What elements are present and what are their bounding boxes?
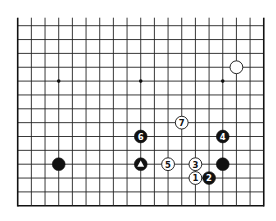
white-stone-1: 1: [189, 172, 202, 185]
star-point-icon: [57, 79, 61, 83]
move-number: 5: [165, 160, 171, 170]
black-stone-icon: [52, 158, 65, 171]
move-number: 4: [220, 132, 226, 142]
black-stone-6: 6: [134, 130, 147, 143]
black-stone-4: 4: [216, 130, 229, 143]
move-number: 6: [138, 132, 144, 142]
white-stone-5: 5: [162, 158, 175, 171]
black-stone-2: 2: [203, 172, 216, 185]
black-stone: [52, 158, 65, 171]
move-number: 1: [192, 173, 198, 183]
move-number: 2: [206, 173, 212, 183]
white-stone-7: 7: [175, 116, 188, 129]
black-stone-marked: [134, 158, 147, 171]
star-point-icon: [221, 79, 225, 83]
white-stone: [230, 61, 243, 74]
white-stone-3: 3: [189, 158, 202, 171]
move-number: 7: [179, 118, 185, 128]
move-number: 3: [192, 160, 198, 170]
white-stone-icon: [230, 61, 243, 74]
black-stone: [216, 158, 229, 171]
board-grid: [18, 18, 264, 207]
black-stone-icon: [216, 158, 229, 171]
go-board: 1234567: [0, 0, 276, 221]
star-point-icon: [139, 79, 143, 83]
